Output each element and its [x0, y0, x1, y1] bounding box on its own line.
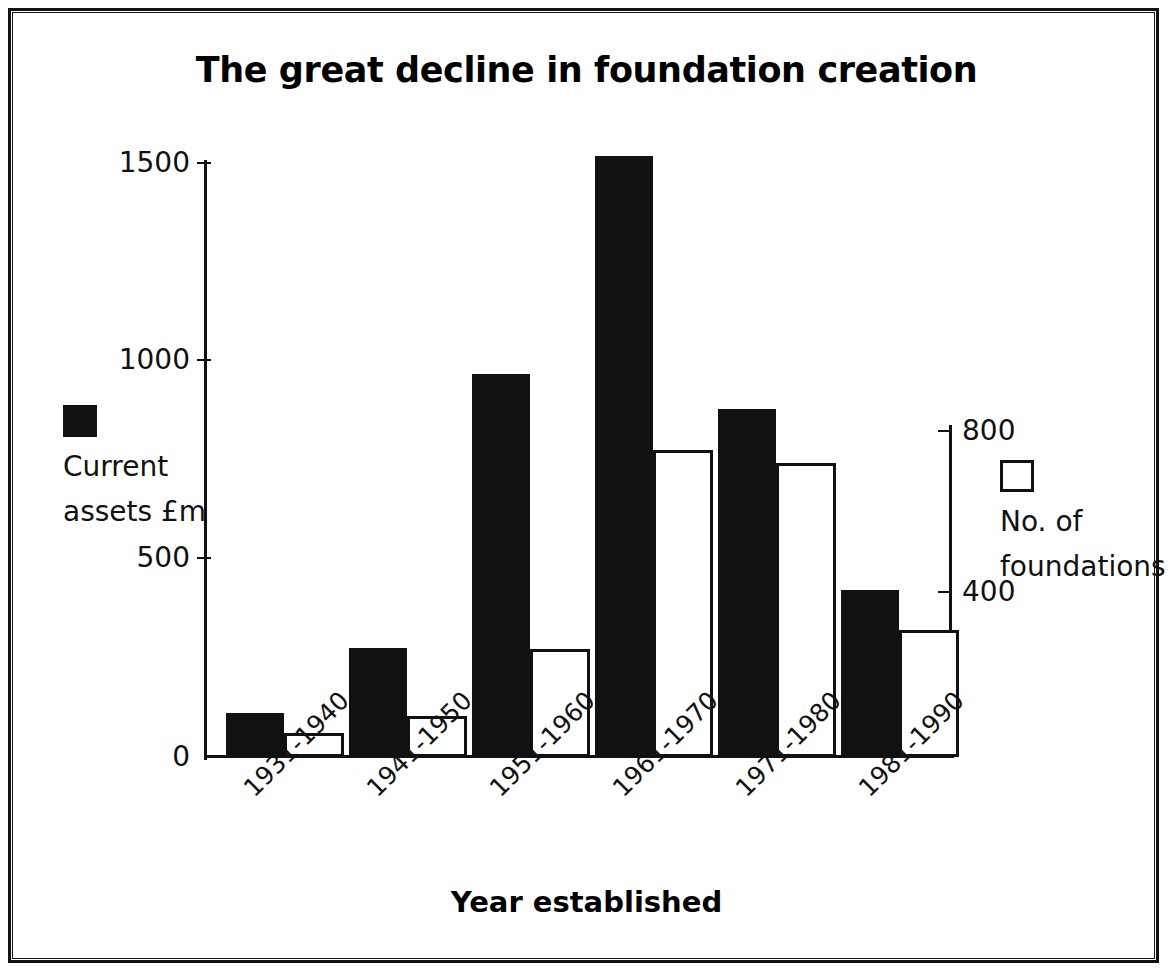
bar-assets-1981-1990 [841, 590, 899, 757]
legend-label-current-assets-line2: assets £m [63, 496, 206, 527]
legend-label-foundations-line1: No. of [1000, 506, 1166, 537]
legend-swatch-filled-square-icon [63, 405, 97, 437]
left-tick-label-1000: 1000 [80, 343, 190, 376]
right-tick-400 [938, 591, 952, 593]
bar-assets-1941-1950 [349, 648, 407, 757]
left-tick-label-1500: 1500 [80, 146, 190, 179]
bar-assets-1971-1980 [718, 409, 776, 757]
x-axis-title: Year established [0, 885, 1173, 919]
legend-no-of-foundations: No. of foundations [1000, 460, 1166, 583]
legend-label-foundations-line2: foundations [1000, 551, 1166, 582]
left-tick-500 [197, 557, 211, 559]
legend-label-current-assets-line1: Current [63, 451, 206, 482]
legend-current-assets: Current assets £m [63, 405, 206, 528]
bar-assets-1961-1970 [595, 156, 653, 757]
right-tick-label-800: 800 [962, 414, 1015, 447]
left-tick-label-0: 0 [80, 740, 190, 773]
left-tick-label-500: 500 [80, 541, 190, 574]
left-tick-1500 [197, 162, 211, 164]
left-tick-1000 [197, 359, 211, 361]
chart-figure: The great decline in foundation creation… [0, 0, 1173, 977]
bar-assets-1951-1960 [472, 374, 530, 757]
legend-swatch-outline-square-icon [1000, 460, 1034, 492]
right-tick-800 [938, 430, 952, 432]
